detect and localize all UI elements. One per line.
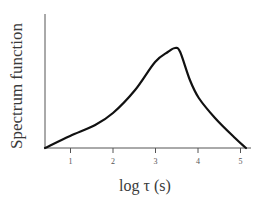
x-axis-ticks: 12345	[69, 148, 243, 166]
spectrum-chart: Spectrum function 12345 log τ (s)	[0, 0, 271, 204]
x-tick-label: 1	[69, 157, 73, 166]
x-tick-label: 3	[154, 157, 158, 166]
x-tick-label: 2	[111, 157, 115, 166]
x-axis-label: log τ (s)	[119, 177, 171, 195]
x-tick-label: 5	[239, 157, 243, 166]
x-tick-label: 4	[196, 157, 200, 166]
spectrum-curve	[45, 48, 246, 148]
y-axis-label: Spectrum function	[7, 22, 26, 149]
